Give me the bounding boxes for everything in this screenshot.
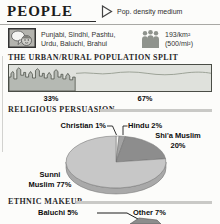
languages-icon (8, 28, 36, 48)
urban-percent-label: 33% (36, 94, 66, 103)
ethnic-pie-wedge (130, 218, 161, 224)
density-metric: 193/km² (165, 30, 193, 39)
christian-leader-line (107, 126, 117, 135)
baluchi-leader-line (97, 213, 138, 219)
sunni-label: Sunni Muslim 77% (28, 170, 72, 189)
languages-list: Punjabi, Sindhi, Pashtu, Urdu, Baluchi, … (41, 30, 115, 48)
languages-line2: Urdu, Baluchi, Brahui (41, 39, 115, 48)
ethnic-heading-rule (76, 201, 212, 204)
pop-density-label: Pop. density medium (117, 8, 182, 15)
pop-density-marker-icon (101, 5, 113, 18)
ethnic-pie-chart-partial (0, 205, 220, 224)
languages-line1: Punjabi, Sindhi, Pashtu, (41, 30, 115, 39)
population-density-icon (140, 29, 161, 48)
people-infographic-panel: PEOPLE Pop. density medium Punjabi, Sind… (0, 0, 220, 224)
rural-segment (76, 65, 211, 91)
population-density-value: 193/km² (500/mi²) (165, 30, 193, 48)
countryside-graphic (76, 65, 211, 91)
page-title: PEOPLE (7, 3, 96, 22)
shia-label: Shi'a Muslim 20% (146, 131, 210, 150)
urban-rural-heading: THE URBAN/RURAL POPULATION SPLIT (8, 53, 178, 62)
urban-rural-bar-chart (8, 64, 212, 92)
baluchi-label: Baluchi 5% (38, 208, 78, 217)
hindu-label: Hindu 2% (128, 121, 162, 130)
religion-heading-rule (100, 109, 212, 112)
urban-segment (9, 65, 76, 91)
header-divider (0, 24, 220, 25)
other-label: Other 7% (133, 208, 166, 217)
rural-percent-label: 67% (130, 94, 160, 103)
density-imperial: (500/mi²) (165, 39, 193, 48)
christian-label: Christian 1% (46, 121, 106, 130)
religion-heading: RELIGIOUS PERSUASION (8, 105, 115, 114)
hindu-leader-line (123, 126, 128, 135)
city-skyline-graphic (9, 65, 76, 91)
